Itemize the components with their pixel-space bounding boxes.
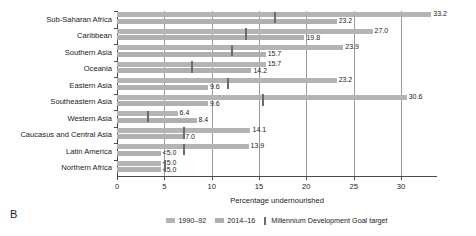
y-axis-label-oceania: Oceania	[84, 64, 112, 73]
bar-group: 14.17.0	[117, 127, 437, 144]
y-axis-label-southeastern-asia: Southeastern Asia	[50, 97, 112, 106]
y-axis-label-caribbean: Caribbean	[77, 31, 112, 40]
bar-group: 23.29.6	[117, 77, 437, 94]
x-axis-title: Percentage undernourished	[117, 196, 437, 205]
bar-value-label: 14.2	[253, 67, 267, 75]
x-axis-tick-label: 20	[302, 182, 310, 191]
bar-value-label: 23.9	[345, 43, 359, 51]
y-axis-label-northern-africa: Northern Africa	[61, 163, 112, 172]
y-axis-label-eastern-asia: Eastern Asia	[69, 81, 112, 90]
legend-item-mdg-target: Millennium Development Goal target	[264, 216, 387, 225]
bar-group: 30.69.6	[117, 94, 437, 111]
bar-2014-16	[117, 35, 304, 40]
y-axis-label-western-asia: Western Asia	[67, 114, 112, 123]
legend-label-1990-92: 1990–92	[178, 216, 206, 225]
bar-2014-16	[117, 151, 161, 156]
bar-group: 23.915.7	[117, 44, 437, 61]
bar-2014-16	[117, 19, 337, 24]
bar-group: 27.019.8	[117, 28, 437, 45]
legend-swatch-1990-92-icon	[166, 218, 175, 223]
x-axis-tick	[117, 176, 118, 180]
x-axis-tick	[259, 176, 260, 180]
bar-group: 15.714.2	[117, 61, 437, 78]
bar-2014-16	[117, 167, 161, 172]
y-axis-category-labels: Sub-Saharan AfricaCaribbeanSouthern Asia…	[0, 11, 112, 176]
y-axis-tick	[114, 160, 117, 161]
x-axis-tick-label: 30	[397, 182, 405, 191]
mdg-target-marker	[183, 127, 185, 139]
x-axis-tick	[212, 176, 213, 180]
y-axis-tick	[114, 28, 117, 29]
plot-area: 33.223.227.019.823.915.715.714.223.29.63…	[117, 11, 437, 176]
legend-label-mdg-target: Millennium Development Goal target	[271, 216, 387, 225]
mdg-target-marker	[245, 28, 247, 40]
mdg-target-marker	[231, 45, 233, 57]
bar-group: 33.223.2	[117, 11, 437, 28]
bar-value-label: 6.4	[180, 109, 190, 117]
mdg-target-marker	[191, 61, 193, 73]
y-axis-label-latin-america: Latin America	[66, 147, 112, 156]
bar-value-label: 23.2	[339, 17, 353, 25]
x-axis-tick	[401, 176, 402, 180]
bar-group: 13.9<5.0	[117, 143, 437, 160]
y-axis-label-southern-asia: Southern Asia	[65, 48, 112, 57]
y-axis-label-caucasus-and-central-asia: Caucasus and Central Asia	[20, 130, 112, 139]
bar-group: <5.0<5.0	[117, 160, 437, 177]
mdg-target-marker	[227, 78, 229, 90]
bar-value-label: 14.1	[252, 126, 266, 134]
y-axis-label-sub-saharan-africa: Sub-Saharan Africa	[46, 15, 112, 24]
bar-value-label: 7.0	[185, 133, 195, 141]
y-axis-tick	[114, 143, 117, 144]
y-axis-tick	[114, 44, 117, 45]
bar-value-label: <5.0	[163, 149, 177, 157]
legend-swatch-2014-16-icon	[215, 218, 224, 223]
bar-2014-16	[117, 52, 266, 57]
y-axis-tick	[114, 127, 117, 128]
mdg-target-marker	[147, 111, 149, 123]
y-axis-tick	[114, 77, 117, 78]
x-axis-tick	[306, 176, 307, 180]
x-axis-tick-label: 15	[255, 182, 263, 191]
chart-figure: Sub-Saharan AfricaCaribbeanSouthern Asia…	[0, 0, 476, 236]
x-axis-tick	[164, 176, 165, 180]
bar-value-label: 13.9	[251, 142, 265, 150]
bar-value-label: 15.7	[268, 60, 282, 68]
chart-legend: 1990–92 2014–16 Millennium Development G…	[117, 216, 437, 225]
x-axis-tick	[354, 176, 355, 180]
x-axis-tick-label: 5	[162, 182, 166, 191]
bar-value-label: 23.2	[339, 76, 353, 84]
mdg-target-marker	[274, 12, 276, 24]
bar-value-label: 27.0	[375, 27, 389, 35]
bar-value-label: 33.2	[433, 10, 447, 18]
legend-item-series-1: 1990–92	[166, 216, 206, 225]
mdg-target-marker	[262, 94, 264, 106]
x-axis-tick-label: 25	[349, 182, 357, 191]
y-axis-tick	[114, 94, 117, 95]
mdg-target-marker	[183, 144, 185, 156]
bar-value-label: 30.6	[409, 93, 423, 101]
x-axis-tick-label: 0	[115, 182, 119, 191]
bar-value-label: 9.6	[210, 83, 220, 91]
bar-value-label: 19.8	[306, 34, 320, 42]
x-axis-tick-label: 10	[207, 182, 215, 191]
legend-label-2014-16: 2014–16	[227, 216, 255, 225]
y-axis-tick	[114, 61, 117, 62]
bar-2014-16	[117, 118, 197, 123]
bar-2014-16	[117, 68, 251, 73]
bar-2014-16	[117, 134, 183, 139]
bar-value-label: 8.4	[199, 116, 209, 124]
legend-item-series-2: 2014–16	[215, 216, 255, 225]
legend-tick-marker-icon	[264, 217, 266, 225]
bar-2014-16	[117, 85, 208, 90]
y-axis-tick	[114, 110, 117, 111]
bar-group: 6.48.4	[117, 110, 437, 127]
panel-letter: B	[10, 208, 17, 220]
bar-value-label: 9.6	[210, 100, 220, 108]
bar-1990-92	[117, 161, 161, 166]
bar-2014-16	[117, 101, 208, 106]
mdg-target-marker	[164, 160, 166, 172]
y-axis-tick	[114, 11, 117, 12]
bar-value-label: 15.7	[268, 50, 282, 58]
